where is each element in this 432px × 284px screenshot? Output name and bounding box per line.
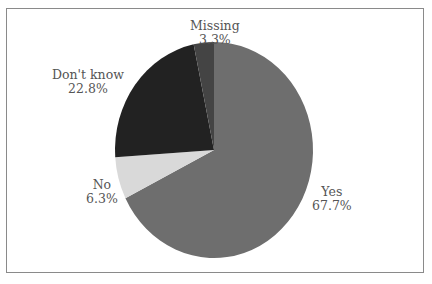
label-missing-name: Missing [190, 19, 240, 33]
label-yes-name: Yes [312, 185, 352, 199]
label-yes-pct: 67.7% [312, 199, 352, 213]
label-no: No 6.3% [86, 178, 118, 206]
label-no-name: No [86, 178, 118, 192]
label-dontknow-pct: 22.8% [52, 82, 124, 96]
label-yes: Yes 67.7% [312, 185, 352, 213]
label-dontknow-name: Don't know [52, 68, 124, 82]
label-no-pct: 6.3% [86, 192, 118, 206]
label-missing-pct: 3.3% [190, 33, 240, 47]
label-dontknow: Don't know 22.8% [52, 68, 124, 96]
label-missing: Missing 3.3% [190, 19, 240, 47]
